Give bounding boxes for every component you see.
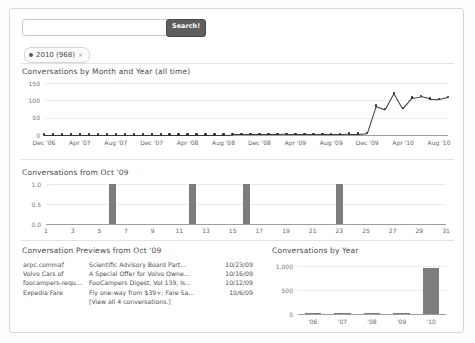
- x-axis-tick: 21: [305, 227, 321, 234]
- table-row[interactable]: arpc.commafScientific Advisory Board Par…: [23, 260, 255, 269]
- data-point: [106, 133, 108, 135]
- x-axis-tick: 27: [385, 227, 401, 234]
- table-row[interactable]: Expedia FareFly one-way from $39+: Fare …: [23, 288, 255, 297]
- search-input[interactable]: [22, 19, 170, 36]
- data-point: [43, 133, 45, 135]
- gridline: [44, 118, 448, 119]
- x-axis-tick: 23: [331, 227, 347, 234]
- data-point: [97, 133, 99, 135]
- line-chart-title: Conversations by Month and Year (all tim…: [22, 67, 190, 76]
- conversation-previews-table: arpc.commafScientific Advisory Board Par…: [23, 260, 255, 306]
- preview-subject: Scientific Advisory Board Part...: [89, 260, 205, 269]
- x-axis-tick: 19: [278, 227, 294, 234]
- x-axis-tick: 3: [65, 227, 81, 234]
- data-point: [285, 133, 287, 135]
- table-row[interactable]: foocampers-requ...FooCampers Digest, Vol…: [23, 278, 255, 287]
- y-axis-tick: 0: [22, 132, 40, 139]
- preview-date: 10/6/09: [205, 288, 253, 297]
- x-axis-tick: 31: [438, 227, 454, 234]
- chip-dot-icon: [29, 53, 33, 57]
- year-chart-title: Conversations by Year: [272, 246, 359, 255]
- data-point: [447, 96, 449, 98]
- data-point: [124, 133, 126, 135]
- x-axis-tick: 1: [38, 227, 54, 234]
- preview-subject: FooCampers Digest, Vol 139, Is...: [89, 278, 205, 287]
- y-axis-tick: 500: [272, 287, 293, 294]
- bar[interactable]: [109, 184, 116, 224]
- search-button[interactable]: Search!: [166, 19, 206, 37]
- x-axis-line: [298, 314, 446, 315]
- x-axis-tick: '08: [360, 318, 384, 325]
- preview-date: 10/16/09: [205, 269, 253, 278]
- y-axis-tick: 1.0: [22, 181, 41, 188]
- data-point: [70, 133, 72, 135]
- y-axis-tick: 0.5: [22, 201, 41, 208]
- filter-chip-2010[interactable]: 2010 (968) ×: [24, 47, 90, 63]
- close-icon[interactable]: ×: [78, 52, 83, 58]
- data-point: [160, 133, 162, 135]
- conversations-from-oct-chart[interactable]: 0.00.51.0135791113151719212325272931: [22, 180, 452, 238]
- x-axis-tick: Dec '09: [351, 139, 383, 146]
- preview-from: foocampers-requ...: [23, 278, 89, 287]
- data-point: [303, 133, 305, 135]
- x-axis-tick: Apr '09: [279, 139, 311, 146]
- divider-top: [21, 63, 454, 64]
- x-axis-tick: Dec '06: [28, 139, 60, 146]
- y-axis-tick: 0: [272, 311, 293, 318]
- data-point: [61, 133, 63, 135]
- data-point: [195, 133, 197, 135]
- data-point: [186, 133, 188, 135]
- previews-title: Conversation Previews from Oct '09: [22, 246, 161, 255]
- chip-label: 2010 (968): [36, 51, 75, 59]
- x-axis-tick: '09: [390, 318, 414, 325]
- view-all-conversations-link[interactable]: [View all 4 conversations.]: [89, 297, 255, 306]
- x-axis-tick: 13: [198, 227, 214, 234]
- day-chart-title: Conversations from Oct '09: [22, 168, 129, 177]
- x-axis-tick: Apr '08: [172, 139, 204, 146]
- data-point: [115, 133, 117, 135]
- bar[interactable]: [305, 313, 321, 314]
- gridline: [44, 83, 448, 84]
- x-axis-tick: 15: [225, 227, 241, 234]
- x-axis-tick: '07: [330, 318, 354, 325]
- x-axis-tick: Aug '08: [208, 139, 240, 146]
- x-axis-tick: '06: [301, 318, 325, 325]
- preview-from: Volvo Cars of: [23, 269, 89, 278]
- y-axis-tick: 100: [22, 97, 40, 104]
- conversations-by-year-chart[interactable]: 05001,000'06'07'08'09'10: [272, 258, 452, 330]
- data-point: [402, 107, 404, 109]
- x-axis-tick: 29: [411, 227, 427, 234]
- data-point: [213, 133, 215, 135]
- bar[interactable]: [423, 268, 439, 314]
- x-axis-tick: Apr '10: [387, 139, 419, 146]
- x-axis-tick: 11: [171, 227, 187, 234]
- data-point: [168, 133, 170, 135]
- divider-mid: [21, 159, 454, 160]
- x-axis-tick: 5: [91, 227, 107, 234]
- data-point: [79, 133, 81, 135]
- bar[interactable]: [393, 313, 409, 314]
- y-axis-tick: 1,000: [272, 263, 293, 270]
- preview-date: 10/12/09: [205, 278, 253, 287]
- data-point: [133, 133, 135, 135]
- bar[interactable]: [334, 313, 350, 314]
- data-point: [151, 133, 153, 135]
- gridline: [44, 100, 448, 101]
- preview-subject: A Special Offer for Volvo Owne...: [89, 269, 205, 278]
- data-point: [204, 133, 206, 135]
- data-point: [429, 97, 431, 99]
- bar[interactable]: [364, 313, 380, 314]
- bar[interactable]: [189, 184, 196, 224]
- data-point: [312, 133, 314, 135]
- data-point: [411, 96, 413, 98]
- data-point: [222, 133, 224, 135]
- bar[interactable]: [336, 184, 343, 224]
- data-point: [142, 133, 144, 135]
- x-axis-tick: Aug '09: [315, 139, 347, 146]
- table-row[interactable]: Volvo Cars ofA Special Offer for Volvo O…: [23, 269, 255, 278]
- x-axis-tick: Aug '10: [423, 139, 455, 146]
- preview-from: arpc.commaf: [23, 260, 89, 269]
- conversations-by-month-chart[interactable]: 050100150Dec '06Apr '07Aug '07Dec '07Apr…: [22, 79, 452, 151]
- bar[interactable]: [243, 184, 250, 224]
- y-axis-tick: 150: [22, 80, 40, 87]
